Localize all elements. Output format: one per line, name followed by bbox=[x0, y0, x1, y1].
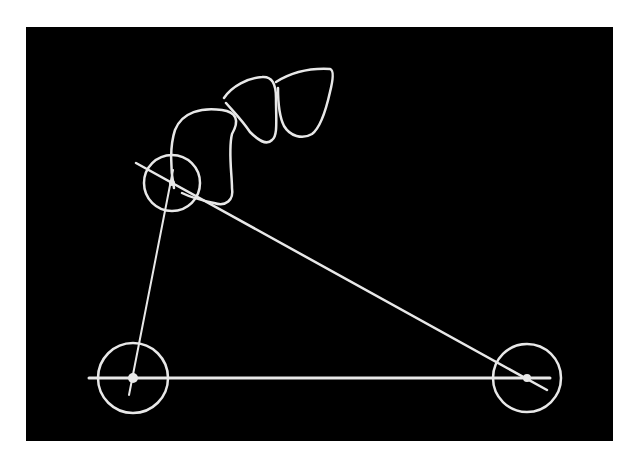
dental-triangle-figure bbox=[0, 0, 633, 462]
point-upper-left bbox=[169, 180, 175, 186]
diagram-canvas bbox=[0, 0, 633, 462]
point-lower-left bbox=[128, 373, 138, 383]
point-lower-right bbox=[523, 374, 531, 382]
